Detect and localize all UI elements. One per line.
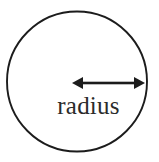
arrow-head-left-icon xyxy=(72,77,83,89)
circle-radius-figure: radius xyxy=(0,0,159,162)
radius-arrow xyxy=(72,77,145,89)
diagram-canvas xyxy=(0,0,159,162)
arrow-head-right-icon xyxy=(134,77,145,89)
radius-label: radius xyxy=(0,93,159,119)
arrow-shaft xyxy=(80,82,137,85)
